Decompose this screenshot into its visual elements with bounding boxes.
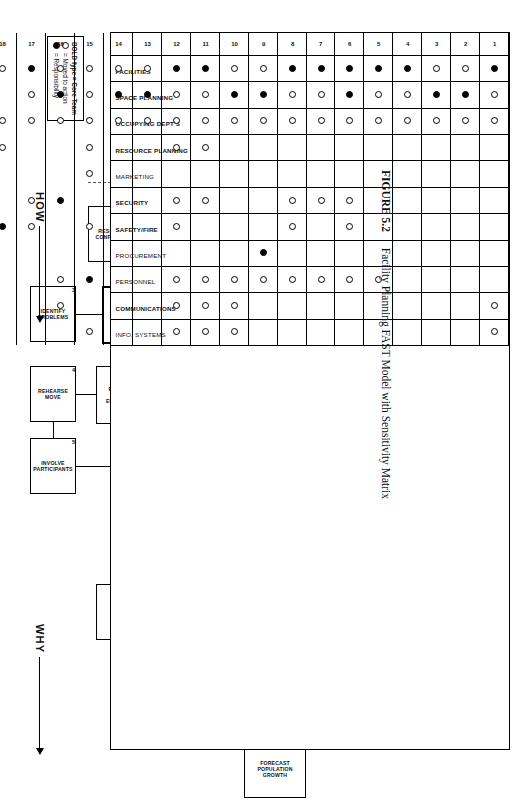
matrix-dot-moved-to-action <box>433 64 440 71</box>
matrix-column-number: 18 <box>0 29 14 58</box>
matrix-dot-moved-to-action <box>86 91 93 98</box>
matrix-gridline-horizontal <box>132 33 133 345</box>
matrix-dot-responsibility <box>0 222 6 229</box>
matrix-dot-moved-to-action <box>491 328 498 335</box>
matrix-dot-moved-to-action <box>289 222 296 229</box>
matrix-dot-moved-to-action <box>86 328 93 335</box>
matrix-row-label: PROCUREMENT <box>116 251 167 258</box>
sensitivity-matrix: 123456789101112131415161718192021222324F… <box>110 32 510 750</box>
matrix-dot-moved-to-action <box>231 328 238 335</box>
matrix-gridline-horizontal <box>219 33 220 345</box>
matrix-gridline-horizontal <box>508 33 509 345</box>
matrix-dot-moved-to-action <box>202 117 209 124</box>
matrix-dot-moved-to-action <box>346 196 353 203</box>
figure-caption-text: Facility Planning FAST Model with Sensit… <box>380 248 392 499</box>
matrix-dot-moved-to-action <box>491 117 498 124</box>
matrix-column-number: 9 <box>252 29 274 58</box>
matrix-dot-moved-to-action <box>173 196 180 203</box>
matrix-row-label: INFO. SYSTEMS <box>116 330 166 337</box>
matrix-dot-moved-to-action <box>375 117 382 124</box>
node-label: INVOLVE PARTICIPANTS <box>29 459 76 471</box>
matrix-column-number: 16 <box>50 29 72 58</box>
matrix-dot-moved-to-action <box>318 275 325 282</box>
matrix-dot-responsibility <box>57 91 64 98</box>
matrix-dot-moved-to-action <box>260 275 267 282</box>
node-label: FORECAST POPULATION GROWTH <box>253 759 296 778</box>
matrix-gridline-horizontal <box>306 33 307 345</box>
figure-caption: FIGURE 5.2 Facility Planning FAST Model … <box>380 170 392 499</box>
matrix-dot-moved-to-action <box>404 117 411 124</box>
node-involve-participants[interactable]: INVOLVE PARTICIPANTS5 <box>30 438 76 494</box>
matrix-column-number: 7 <box>310 29 332 58</box>
matrix-dot-responsibility <box>462 91 469 98</box>
matrix-dot-moved-to-action <box>289 117 296 124</box>
matrix-dot-moved-to-action <box>231 117 238 124</box>
matrix-gridline-horizontal <box>161 33 162 345</box>
matrix-column-number: 6 <box>339 29 361 58</box>
matrix-row-label: PERSONNEL <box>116 277 156 284</box>
matrix-column-number: 4 <box>397 29 419 58</box>
matrix-dot-moved-to-action <box>260 117 267 124</box>
matrix-column-number: 11 <box>194 29 216 58</box>
connector-rehearse <box>76 394 96 395</box>
matrix-dot-moved-to-action <box>57 301 64 308</box>
matrix-dot-moved-to-action <box>433 117 440 124</box>
matrix-dot-moved-to-action <box>202 143 209 150</box>
matrix-column-number: 12 <box>165 29 187 58</box>
connector-identify-problems <box>76 314 102 315</box>
matrix-gridline-horizontal <box>421 33 422 345</box>
matrix-dot-moved-to-action <box>86 222 93 229</box>
matrix-gridline-horizontal <box>335 33 336 345</box>
matrix-dot-moved-to-action <box>260 64 267 71</box>
matrix-column-number: 1 <box>484 29 506 58</box>
matrix-row-label: SAFETY/FIRE <box>116 225 158 232</box>
matrix-dot-responsibility <box>202 64 209 71</box>
matrix-column-number: 13 <box>137 29 159 58</box>
matrix-label-separator <box>111 345 509 346</box>
matrix-dot-moved-to-action <box>404 91 411 98</box>
matrix-dot-moved-to-action <box>491 91 498 98</box>
matrix-dot-moved-to-action <box>318 91 325 98</box>
matrix-dot-moved-to-action <box>144 64 151 71</box>
matrix-dot-moved-to-action <box>173 143 180 150</box>
node-rehearse-move[interactable]: REHEARSE MOVE4 <box>30 366 76 422</box>
matrix-dot-responsibility <box>289 64 296 71</box>
matrix-dot-moved-to-action <box>318 117 325 124</box>
matrix-gridline-horizontal <box>248 33 249 345</box>
matrix-dot-moved-to-action <box>346 275 353 282</box>
matrix-dot-moved-to-action <box>115 117 122 124</box>
matrix-dot-moved-to-action <box>231 275 238 282</box>
matrix-dot-moved-to-action <box>115 64 122 71</box>
matrix-dot-moved-to-action <box>462 64 469 71</box>
matrix-dot-moved-to-action <box>491 301 498 308</box>
matrix-column-number: 10 <box>223 29 245 58</box>
matrix-gridline-horizontal <box>392 33 393 345</box>
matrix-dot-moved-to-action <box>0 64 6 71</box>
matrix-row-label: SECURITY <box>116 198 149 205</box>
matrix-dot-moved-to-action <box>318 196 325 203</box>
matrix-column-number: 8 <box>281 29 303 58</box>
matrix-dot-moved-to-action <box>375 91 382 98</box>
matrix-gridline-horizontal <box>190 33 191 345</box>
direction-how: HOW <box>34 192 46 322</box>
matrix-grid: 123456789101112131415161718192021222324F… <box>111 33 509 749</box>
matrix-dot-moved-to-action <box>231 301 238 308</box>
matrix-dot-responsibility <box>115 91 122 98</box>
matrix-gridline-horizontal <box>479 33 480 345</box>
matrix-dot-moved-to-action <box>231 64 238 71</box>
direction-why-label: WHY <box>34 624 46 653</box>
matrix-row-label: MARKETING <box>116 172 155 179</box>
matrix-column-number: 15 <box>79 29 101 58</box>
matrix-column-number: 5 <box>368 29 390 58</box>
matrix-dot-moved-to-action <box>0 117 6 124</box>
matrix-gridline-horizontal <box>277 33 278 345</box>
matrix-dot-responsibility <box>433 91 440 98</box>
matrix-dot-moved-to-action <box>289 91 296 98</box>
matrix-dot-responsibility <box>231 91 238 98</box>
matrix-dot-moved-to-action <box>86 143 93 150</box>
matrix-column-number: 17 <box>21 29 43 58</box>
matrix-dot-moved-to-action <box>202 91 209 98</box>
matrix-column-number: 3 <box>426 29 448 58</box>
matrix-column-number: 14 <box>108 29 130 58</box>
